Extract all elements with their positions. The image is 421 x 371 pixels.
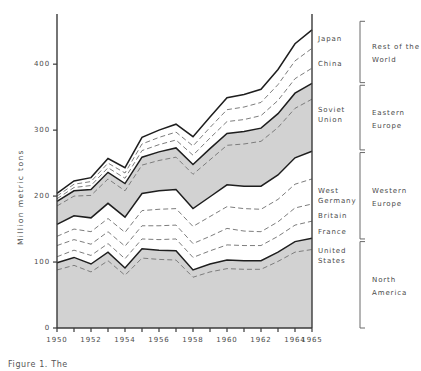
inner-label: States bbox=[318, 256, 346, 267]
inner-label: Britain bbox=[318, 211, 347, 222]
group-bracket bbox=[360, 242, 365, 328]
group-bracket-label: Europe bbox=[372, 121, 402, 132]
group-bracket-label: Western bbox=[372, 186, 407, 197]
group-bracket-label: World bbox=[372, 55, 397, 66]
y-tick-label: 0 bbox=[0, 323, 50, 334]
y-tick-label: 100 bbox=[0, 257, 50, 268]
inner-label: China bbox=[318, 59, 343, 70]
group-bracket-label: Europe bbox=[372, 199, 402, 210]
group-bracket-label: Eastern bbox=[372, 108, 405, 119]
x-tick-label: 1965 bbox=[301, 335, 323, 346]
inner-label: France bbox=[318, 227, 347, 238]
group-bracket-label: America bbox=[372, 288, 407, 299]
group-bracket-label: Rest of the bbox=[372, 42, 420, 53]
figure-container: Million metric tons 01002003004001950195… bbox=[0, 0, 421, 371]
figure-caption: Figure 1. The bbox=[8, 360, 68, 369]
x-tick-label: 1954 bbox=[114, 335, 136, 346]
inner-label: Japan bbox=[318, 34, 342, 45]
x-tick-label: 1962 bbox=[250, 335, 272, 346]
group-bracket-label: North bbox=[372, 275, 396, 286]
x-tick-label: 1950 bbox=[46, 335, 68, 346]
stacked-area-chart bbox=[0, 0, 421, 371]
x-tick-label: 1956 bbox=[148, 335, 170, 346]
inner-label: Union bbox=[318, 115, 343, 126]
group-bracket bbox=[360, 85, 365, 150]
y-tick-label: 200 bbox=[0, 191, 50, 202]
x-tick-label: 1960 bbox=[216, 335, 238, 346]
group-bracket bbox=[360, 21, 365, 82]
inner-label: Germany bbox=[318, 196, 356, 207]
x-tick-label: 1952 bbox=[80, 335, 102, 346]
y-tick-label: 400 bbox=[0, 59, 50, 70]
group-bracket bbox=[360, 153, 365, 239]
y-tick-label: 300 bbox=[0, 125, 50, 136]
x-tick-label: 1958 bbox=[182, 335, 204, 346]
